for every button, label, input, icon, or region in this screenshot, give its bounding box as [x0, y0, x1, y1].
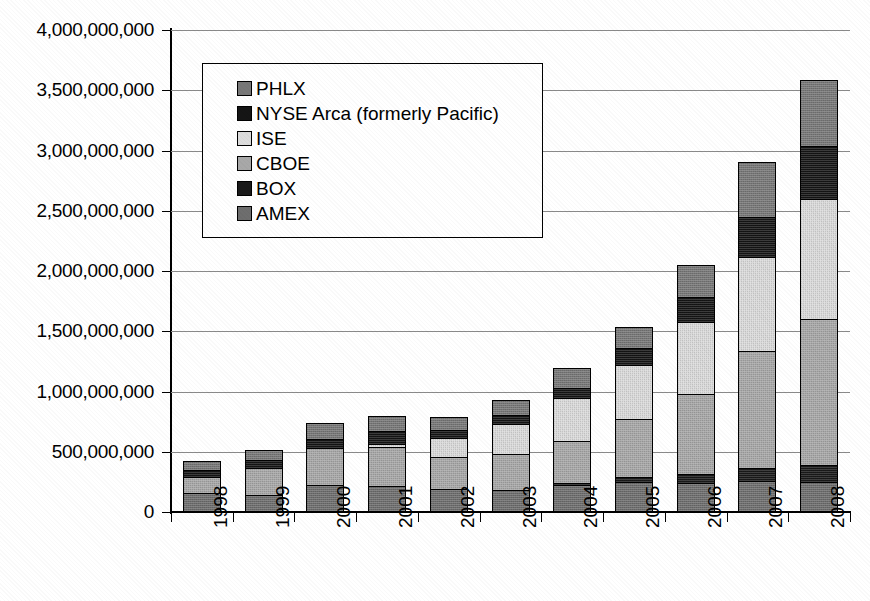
bar-2008[interactable] [800, 30, 838, 512]
x-axis-label-2008: 2008 [828, 458, 847, 528]
segment-texture [801, 320, 837, 465]
x-axis-label-2004: 2004 [581, 458, 600, 528]
legend-item-AMEX[interactable]: AMEX [237, 201, 310, 225]
segment-texture [554, 369, 590, 388]
x-tick-mark [850, 513, 851, 522]
x-axis-label-1998: 1998 [211, 458, 230, 528]
segment-texture [431, 439, 467, 457]
y-tick-label-wrap: 1,000,000,000 [0, 382, 154, 401]
x-tick-mark [541, 513, 542, 522]
segment-texture [554, 399, 590, 441]
x-tick-mark [665, 513, 666, 522]
segment-texture [739, 257, 775, 350]
bar-segment-2003-ISE[interactable] [492, 424, 530, 455]
legend-label: AMEX [256, 204, 310, 223]
bar-segment-2003-NYSE[interactable] [492, 415, 530, 426]
bar-segment-2008-PHLX[interactable] [800, 80, 838, 147]
y-tick-label-wrap: 0 [0, 502, 154, 521]
bar-segment-2001-PHLX[interactable] [368, 416, 406, 432]
bar-segment-2007-ISE[interactable] [738, 256, 776, 351]
legend-item-NYSE[interactable]: NYSE Arca (formerly Pacific) [237, 101, 499, 125]
y-tick-mark [162, 512, 171, 513]
bar-segment-2005-ISE[interactable] [615, 364, 653, 420]
y-tick-label-wrap: 3,500,000,000 [0, 80, 154, 99]
x-axis-label-2006: 2006 [705, 458, 724, 528]
bar-segment-2000-PHLX[interactable] [306, 423, 344, 440]
x-axis-label-2005: 2005 [643, 458, 662, 528]
x-tick-mark [356, 513, 357, 522]
bar-segment-2001-NYSE[interactable] [368, 430, 406, 444]
segment-texture [739, 218, 775, 257]
segment-texture [307, 439, 343, 448]
stacked-bar-chart: 4,000,000,0003,500,000,0003,000,000,0002… [0, 0, 870, 601]
bar-segment-2007-PHLX[interactable] [738, 162, 776, 218]
segment-texture [801, 81, 837, 146]
segment-texture [678, 266, 714, 297]
bar-segment-2005-NYSE[interactable] [615, 348, 653, 366]
bar-segment-2008-CBOE[interactable] [800, 319, 838, 466]
y-tick-label-wrap: 2,500,000,000 [0, 201, 154, 220]
bar-2007[interactable] [738, 30, 776, 512]
y-tick-label: 500,000,000 [52, 442, 154, 461]
y-tick-label: 1,500,000,000 [36, 321, 154, 340]
x-axis-label-2001: 2001 [396, 458, 415, 528]
bar-segment-2007-NYSE[interactable] [738, 217, 776, 258]
bar-segment-2002-ISE[interactable] [430, 438, 468, 458]
bar-segment-2005-PHLX[interactable] [615, 327, 653, 350]
legend-label: NYSE Arca (formerly Pacific) [256, 104, 499, 123]
bar-segment-2004-NYSE[interactable] [553, 388, 591, 400]
segment-texture [493, 416, 529, 425]
bar-segment-2002-PHLX[interactable] [430, 417, 468, 431]
y-tick-label: 4,000,000,000 [36, 20, 154, 39]
segment-texture [739, 351, 775, 468]
y-tick-mark [162, 331, 171, 332]
bar-segment-2000-NYSE[interactable] [306, 438, 344, 449]
bar-2005[interactable] [615, 30, 653, 512]
bar-segment-2006-ISE[interactable] [677, 322, 715, 395]
legend-item-CBOE[interactable]: CBOE [237, 151, 310, 175]
y-tick-label: 1,000,000,000 [36, 382, 154, 401]
bar-segment-2002-NYSE[interactable] [430, 429, 468, 439]
segment-texture [493, 401, 529, 415]
y-tick-mark [162, 271, 171, 272]
bar-segment-2006-PHLX[interactable] [677, 265, 715, 298]
legend-swatch-icon [237, 181, 252, 196]
bar-segment-2006-NYSE[interactable] [677, 297, 715, 324]
x-tick-mark [727, 513, 728, 522]
x-axis-label-2000: 2000 [334, 458, 353, 528]
segment-texture [493, 425, 529, 454]
bar-segment-2004-ISE[interactable] [553, 398, 591, 442]
segment-texture [739, 163, 775, 217]
segment-texture [616, 365, 652, 419]
legend-item-BOX[interactable]: BOX [237, 176, 296, 200]
segment-texture [801, 146, 837, 199]
bar-2006[interactable] [677, 30, 715, 512]
bar-segment-2008-NYSE[interactable] [800, 145, 838, 200]
segment-texture [801, 199, 837, 319]
legend-item-PHLX[interactable]: PHLX [237, 76, 306, 100]
y-tick-mark [162, 30, 171, 31]
segment-texture [431, 418, 467, 430]
y-tick-label: 2,000,000,000 [36, 261, 154, 280]
x-tick-mark [171, 513, 172, 522]
chart-legend: PHLXNYSE Arca (formerly Pacific)ISECBOEB… [202, 63, 543, 238]
x-axis-label-2003: 2003 [520, 458, 539, 528]
segment-texture [616, 349, 652, 365]
bar-segment-2007-CBOE[interactable] [738, 350, 776, 469]
segment-texture [554, 389, 590, 399]
legend-swatch-icon [237, 106, 252, 121]
bar-segment-2003-PHLX[interactable] [492, 400, 530, 416]
legend-item-ISE[interactable]: ISE [237, 126, 287, 150]
y-tick-label-wrap: 2,000,000,000 [0, 261, 154, 280]
segment-texture [431, 430, 467, 438]
bar-2004[interactable] [553, 30, 591, 512]
bar-segment-2004-PHLX[interactable] [553, 368, 591, 389]
legend-swatch-icon [237, 206, 252, 221]
segment-texture [616, 328, 652, 349]
x-tick-mark [418, 513, 419, 522]
bar-segment-2008-ISE[interactable] [800, 198, 838, 320]
segment-texture [678, 323, 714, 394]
segment-texture [678, 298, 714, 323]
y-tick-mark [162, 211, 171, 212]
x-tick-mark [480, 513, 481, 522]
